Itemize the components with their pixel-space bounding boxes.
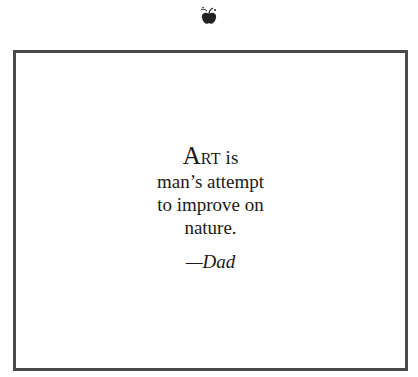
quote-line-1: ART is — [16, 144, 405, 170]
quote-initial: A — [183, 142, 201, 169]
quote-line-4: nature. — [16, 216, 405, 239]
quote-frame: ART is man’s attempt to improve on natur… — [13, 50, 408, 371]
quote-line-1-rest: is — [221, 147, 238, 168]
quote-block: ART is man’s attempt to improve on natur… — [16, 144, 405, 273]
apple-fleuron-icon — [199, 6, 219, 28]
quote-line-3: to improve on — [16, 193, 405, 216]
quote-first-word: RT — [201, 150, 221, 167]
quote-line-2: man’s attempt — [16, 170, 405, 193]
quote-attribution: —Dad — [16, 250, 405, 273]
